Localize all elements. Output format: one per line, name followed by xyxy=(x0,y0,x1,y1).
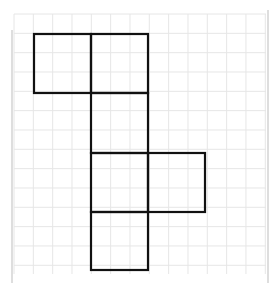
net-square-D xyxy=(91,153,148,212)
grid-lines xyxy=(14,14,266,274)
net-square-B xyxy=(91,34,148,93)
net-square-E xyxy=(148,153,205,212)
grid-border xyxy=(12,10,268,283)
net-square-F xyxy=(91,212,148,270)
cube-net xyxy=(34,34,205,270)
net-square-A xyxy=(34,34,91,93)
grid-diagram xyxy=(0,0,276,290)
net-square-C xyxy=(91,93,148,153)
